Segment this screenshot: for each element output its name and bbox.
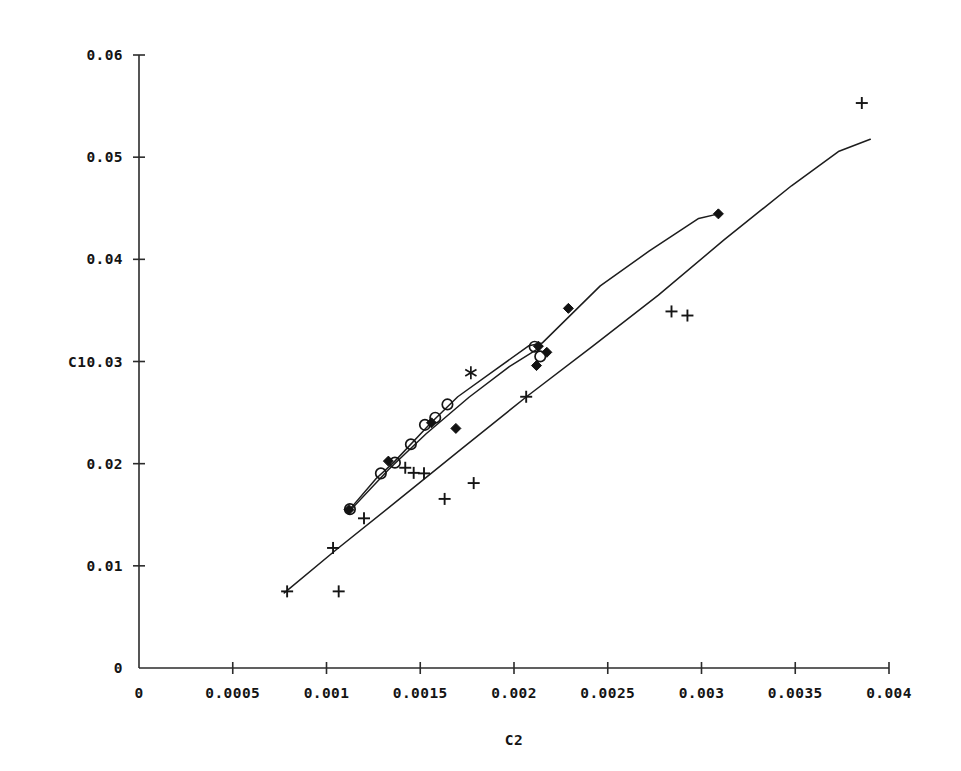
plot-canvas: 00.00050.0010.00150.0020.00250.0030.0035… [0, 0, 961, 771]
series-line-path [351, 346, 542, 509]
series-asterisk-points [465, 366, 476, 379]
y-tick-label: 0.04 [86, 251, 123, 267]
x-tick-label: 0 [134, 685, 143, 701]
filled-diamond-marker [542, 347, 552, 357]
plus-marker [358, 512, 370, 524]
plus-marker [327, 542, 339, 554]
plus-marker [666, 305, 678, 317]
plus-marker [439, 493, 451, 505]
series-filled-diamond-points [344, 209, 723, 515]
x-tick-label: 0.0035 [768, 685, 823, 701]
scatter-plot-figure: 00.00050.0010.00150.0020.00250.0030.0035… [0, 0, 961, 771]
plus-marker [856, 97, 868, 109]
open-circle-marker [442, 399, 452, 409]
y-axis-title: C1 [68, 354, 86, 370]
asterisk-marker [465, 366, 476, 379]
series-plus-points [281, 97, 868, 597]
x-tick-label: 0.0025 [580, 685, 635, 701]
y-tick-label: 0.02 [86, 456, 123, 472]
series-secondary-fitted-line [351, 346, 542, 509]
plus-marker [418, 467, 430, 479]
filled-diamond-marker [451, 423, 461, 433]
plus-marker [468, 477, 480, 489]
plus-marker [333, 585, 345, 597]
series-open-circle-points [345, 341, 546, 514]
data-series-group [281, 97, 870, 597]
x-tick-label: 0.001 [304, 685, 350, 701]
x-tick-label: 0.002 [491, 685, 537, 701]
y-tick-label: 0.05 [86, 149, 123, 165]
axes-group [139, 55, 889, 668]
x-tick-label: 0.0015 [393, 685, 448, 701]
y-tick-label: 0.03 [86, 354, 123, 370]
y-tick-label: 0 [114, 660, 123, 676]
filled-diamond-marker [713, 209, 723, 219]
x-axis-title: C2 [505, 732, 523, 748]
x-tick-label: 0.003 [679, 685, 725, 701]
tick-marks-group [133, 55, 889, 674]
y-tick-label: 0.01 [86, 558, 123, 574]
x-tick-label: 0.004 [866, 685, 912, 701]
series-line-path [284, 139, 870, 593]
filled-diamond-marker [563, 303, 573, 313]
x-tick-label: 0.0005 [205, 685, 260, 701]
series-lower-fitted-line [284, 139, 870, 593]
plus-marker [681, 310, 693, 322]
y-tick-label: 0.06 [86, 47, 123, 63]
